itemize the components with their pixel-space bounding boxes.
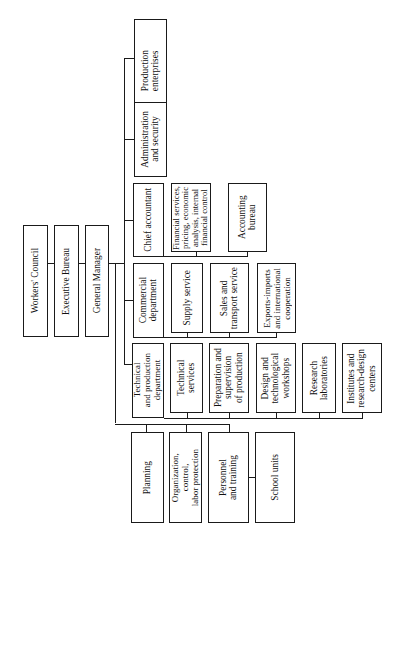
workers-council-label: Workers' Council bbox=[30, 248, 40, 313]
research-laboratories-label: Research laboratories bbox=[309, 356, 330, 400]
commercial-department-box: Commercial department bbox=[133, 263, 164, 338]
institutes-centers-box: Institutes and research-design centers bbox=[342, 343, 382, 413]
technical-services-label: Technical services bbox=[176, 344, 197, 412]
chief-accountant-box: Chief accountant bbox=[133, 183, 164, 257]
workers-council-box: Workers' Council bbox=[23, 225, 48, 337]
connector bbox=[196, 252, 197, 257]
design-workshops-box: Design and technological workshops bbox=[256, 343, 296, 413]
accounting-bureau-box: Accounting bureau bbox=[228, 183, 267, 252]
organization-control-box: Organization, control, labor protection bbox=[169, 432, 202, 523]
personnel-training-box: Personnel and training bbox=[208, 432, 249, 523]
sales-transport-label: Sales and transport service bbox=[219, 267, 240, 329]
connector bbox=[146, 424, 147, 432]
personnel-training-label: Personnel and training bbox=[218, 455, 239, 500]
financial-services-label: Financial services, pricing, economic an… bbox=[172, 186, 210, 250]
sales-transport-box: Sales and transport service bbox=[210, 263, 249, 333]
supply-service-box: Supply service bbox=[171, 263, 203, 333]
connector bbox=[187, 333, 188, 338]
exports-imports-label: Exports-imports and international cooper… bbox=[262, 268, 292, 329]
connector bbox=[48, 263, 54, 264]
connector bbox=[79, 263, 85, 264]
research-laboratories-box: Research laboratories bbox=[302, 343, 336, 413]
administration-security-box: Administration and security bbox=[134, 102, 167, 177]
general-manager-box: General Manager bbox=[85, 225, 109, 337]
accounting-bureau-label: Accounting bureau bbox=[237, 184, 258, 251]
connector bbox=[247, 252, 248, 257]
connector bbox=[186, 424, 187, 432]
main-spine bbox=[124, 58, 125, 365]
connector bbox=[164, 418, 363, 419]
connector bbox=[362, 413, 363, 419]
organization-control-label: Organization, control, labor protection bbox=[171, 449, 200, 506]
connector bbox=[124, 300, 133, 301]
connector bbox=[109, 263, 124, 264]
connector bbox=[115, 424, 230, 425]
connector bbox=[124, 58, 134, 59]
financial-services-box: Financial services, pricing, economic an… bbox=[171, 183, 211, 252]
connector bbox=[164, 256, 248, 257]
school-units-label: School units bbox=[270, 454, 280, 501]
design-workshops-label: Design and technological workshops bbox=[260, 353, 291, 404]
executive-bureau-label: Executive Bureau bbox=[61, 248, 71, 315]
commercial-department-label: Commercial department bbox=[138, 277, 159, 323]
connector bbox=[319, 413, 320, 419]
connector bbox=[124, 220, 133, 221]
technical-department-box: Technical and production department bbox=[132, 343, 164, 418]
technical-department-label: Technical and production department bbox=[133, 353, 162, 407]
technical-services-box: Technical services bbox=[170, 343, 203, 413]
connector bbox=[164, 337, 277, 338]
connector bbox=[276, 333, 277, 338]
institutes-centers-label: Institutes and research-design centers bbox=[346, 349, 377, 408]
connector bbox=[229, 333, 230, 338]
administration-security-label: Administration and security bbox=[140, 111, 161, 168]
connector bbox=[229, 413, 230, 419]
exports-imports-box: Exports-imports and international cooper… bbox=[257, 263, 296, 333]
connector bbox=[124, 364, 132, 365]
connector bbox=[276, 413, 277, 419]
planning-label: Planning bbox=[142, 461, 152, 494]
connector bbox=[229, 424, 230, 432]
chief-accountant-label: Chief accountant bbox=[143, 188, 153, 252]
school-units-box: School units bbox=[255, 432, 295, 523]
preparation-supervision-box: Preparation and supervision of productio… bbox=[209, 343, 249, 413]
executive-bureau-box: Executive Bureau bbox=[54, 225, 79, 337]
connector bbox=[124, 139, 134, 140]
planning-box: Planning bbox=[131, 432, 164, 523]
preparation-supervision-label: Preparation and supervision of productio… bbox=[213, 348, 244, 407]
supply-service-label: Supply service bbox=[182, 270, 192, 325]
staff-spine bbox=[115, 263, 116, 423]
connector bbox=[187, 413, 188, 419]
production-enterprises-label: Production enterprises bbox=[140, 50, 161, 91]
general-manager-label: General Manager bbox=[92, 248, 102, 313]
